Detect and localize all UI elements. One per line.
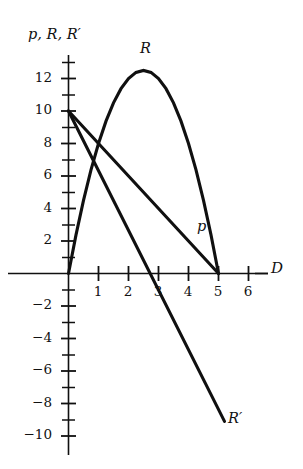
curve-label-R: R [140,41,151,56]
y-tick-label-6: 6 [22,168,52,182]
y-tick-label-minus-6: −6 [16,363,52,377]
x-tick-label-5: 5 [208,285,228,299]
y-tick-label-minus-4: −4 [16,331,52,345]
x-tick-label-2: 2 [118,285,138,299]
marginal-revenue-line-R-prime [69,111,225,421]
y-tick-label-4: 4 [22,201,52,215]
y-tick-label-8: 8 [22,136,52,150]
x-axis-title: D [271,261,283,276]
x-tick-label-1: 1 [88,285,108,299]
curve-label-p: p [197,219,206,234]
y-tick-label-12: 12 [22,71,52,85]
y-axis-title: p, R, R′ [28,27,81,42]
price-line-p [69,111,219,274]
y-tick-label-minus-8: −8 [16,396,52,410]
y-tick-label-minus-10: −10 [10,428,52,442]
y-tick-label-minus-2: −2 [16,298,52,312]
curve-label-R-prime: R′ [228,411,242,426]
revenue-curve-R [69,70,219,273]
y-tick-label-10: 10 [22,103,52,117]
x-tick-label-3: 3 [148,285,168,299]
revenue-marginal-revenue-figure: p, R, R′ D 12 10 8 6 4 2 −2 −4 −6 −8 −10… [0,0,303,469]
y-tick-label-2: 2 [22,233,52,247]
x-tick-label-6: 6 [238,285,258,299]
x-tick-label-4: 4 [178,285,198,299]
